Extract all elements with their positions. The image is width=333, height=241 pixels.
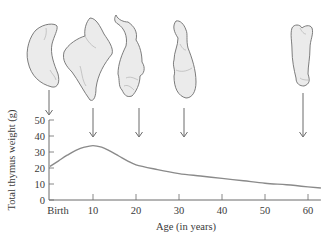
y-tick-label: 20 [35, 163, 46, 174]
arrow-birth-icon [46, 90, 53, 115]
arrow-age-20-icon [136, 108, 143, 137]
thymus-illustration-birth [27, 24, 59, 87]
y-tick-label: 10 [35, 179, 46, 190]
y-tick-label: 40 [35, 131, 46, 142]
y-tick-label: 50 [35, 115, 46, 126]
chart-axes: 01020304050Birth102030405060 [35, 115, 321, 217]
x-tick-label: 10 [88, 205, 99, 216]
age-arrows [46, 90, 307, 137]
x-tick-label: Birth [47, 205, 69, 216]
thymus-weight-figure: 01020304050Birth102030405060 Total thymu… [0, 0, 333, 241]
thymus-illustrations [27, 15, 312, 100]
y-axis-title: Total thymus weight (g) [6, 109, 18, 211]
y-tick-label: 0 [40, 195, 45, 206]
x-tick-label: 60 [303, 205, 314, 216]
thymus-weight-line [50, 146, 321, 188]
arrow-age-58-icon [300, 93, 307, 137]
arrow-age-30-icon [181, 108, 188, 137]
thymus-illustration-age-30 [173, 21, 196, 98]
x-tick-label: 50 [260, 205, 271, 216]
y-tick-label: 30 [35, 147, 46, 158]
x-tick-label: 40 [217, 205, 228, 216]
x-tick-label: 20 [131, 205, 142, 216]
arrow-age-10-icon [90, 108, 97, 137]
thymus-illustration-age-10 [63, 18, 112, 100]
thymus-illustration-age-20 [115, 15, 144, 97]
x-tick-label: 30 [174, 205, 185, 216]
x-axis-title: Age (in years) [156, 221, 217, 233]
thymus-illustration-age-58 [291, 25, 312, 86]
